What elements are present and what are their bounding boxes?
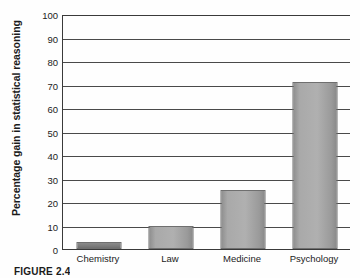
bars-group bbox=[63, 15, 350, 249]
plot-area: 0102030405060708090100 bbox=[62, 15, 350, 250]
y-axis-title: Percentage gain in statistical reasoning bbox=[10, 0, 22, 238]
figure-container: Percentage gain in statistical reasoning… bbox=[0, 0, 360, 278]
bar[interactable] bbox=[293, 82, 338, 249]
bar-slot bbox=[63, 15, 135, 249]
y-axis-tick-label: 100 bbox=[42, 10, 58, 21]
y-axis-tick-label: 80 bbox=[47, 57, 58, 68]
y-axis-tick-label: 10 bbox=[47, 221, 58, 232]
y-axis-tick-label: 20 bbox=[47, 198, 58, 209]
y-axis-tick-label: 50 bbox=[47, 127, 58, 138]
y-axis-tick-label: 40 bbox=[47, 151, 58, 162]
bar[interactable] bbox=[77, 242, 122, 249]
x-axis-tick-label: Chemistry bbox=[62, 253, 134, 264]
figure-caption: FIGURE 2.4 bbox=[14, 266, 70, 277]
y-axis-tick-label: 30 bbox=[47, 174, 58, 185]
y-axis-tick-label: 90 bbox=[47, 33, 58, 44]
bar[interactable] bbox=[149, 226, 194, 250]
bar[interactable] bbox=[221, 190, 266, 249]
x-axis-tick-label: Medicine bbox=[206, 253, 278, 264]
x-axis-tick-label: Psychology bbox=[278, 253, 350, 264]
bar-slot bbox=[279, 15, 351, 249]
y-axis-tick-label: 60 bbox=[47, 104, 58, 115]
bar-slot bbox=[207, 15, 279, 249]
y-axis-tick-label: 0 bbox=[53, 245, 58, 256]
x-axis-tick-label: Law bbox=[134, 253, 206, 264]
bar-slot bbox=[135, 15, 207, 249]
y-axis-tick-label: 70 bbox=[47, 80, 58, 91]
